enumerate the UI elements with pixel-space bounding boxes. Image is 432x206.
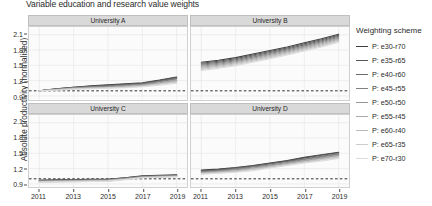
legend-item[interactable]: P: e35-r65 xyxy=(356,54,432,68)
plot-panel xyxy=(190,114,350,189)
legend-label: P: e40-r60 xyxy=(372,70,406,79)
x-tick-label: 2011 xyxy=(193,193,208,200)
legend-label: P: e30-r70 xyxy=(372,42,406,51)
y-tick-label: 2.1 xyxy=(13,118,23,125)
facet-university-a: University A xyxy=(28,15,188,101)
x-tick-label: 2015 xyxy=(262,193,278,200)
x-tick-label: 2017 xyxy=(135,193,151,200)
y-tick-label: 1.5 xyxy=(13,149,23,156)
x-axis-ticks: 2011201320152017201920112013201520172019 xyxy=(28,189,350,206)
y-tick-label: 2.1 xyxy=(13,30,23,37)
y-tick-label: 0.9 xyxy=(13,93,23,100)
legend-line-swatch xyxy=(356,130,368,131)
legend-item[interactable]: P: e50-r50 xyxy=(356,96,432,110)
x-tick-label: 2019 xyxy=(170,193,186,200)
facet-strip-label: University B xyxy=(190,15,350,26)
y-tick-label: 1.5 xyxy=(13,62,23,69)
legend-item[interactable]: P: e40-r60 xyxy=(356,68,432,82)
legend-item[interactable]: P: e45-r55 xyxy=(356,82,432,96)
x-tick-label: 2019 xyxy=(332,193,348,200)
plot-panel xyxy=(28,114,188,189)
facet-strip-label: University C xyxy=(28,103,188,114)
legend-item[interactable]: P: e60-r40 xyxy=(356,124,432,138)
legend-item[interactable]: P: e70-r30 xyxy=(356,152,432,166)
facet-strip-label: University D xyxy=(190,103,350,114)
legend-item[interactable]: P: e55-r45 xyxy=(356,110,432,124)
x-tick-label: 2013 xyxy=(227,193,243,200)
legend-line-swatch xyxy=(356,46,368,47)
legend-label: P: e45-r55 xyxy=(372,84,406,93)
legend-items: P: e30-r70P: e35-r65P: e40-r60P: e45-r55… xyxy=(356,40,432,166)
legend-label: P: e55-r45 xyxy=(372,112,406,121)
legend-label: P: e70-r30 xyxy=(372,154,406,163)
gridlines xyxy=(191,115,349,188)
y-axis-ticks: 0.91.21.51.82.10.91.21.51.82.1 xyxy=(0,0,27,206)
plot-panel xyxy=(28,26,188,101)
legend-item[interactable]: P: e30-r70 xyxy=(356,40,432,54)
legend-item[interactable]: P: e65-r35 xyxy=(356,138,432,152)
facet-university-d: University D xyxy=(190,103,350,189)
legend-line-swatch xyxy=(356,60,368,61)
x-tick-label: 2011 xyxy=(31,193,46,200)
x-tick-label: 2015 xyxy=(100,193,116,200)
legend-label: P: e60-r40 xyxy=(372,126,406,135)
y-tick-label: 1.8 xyxy=(13,46,23,53)
plot-panel xyxy=(190,26,350,101)
facet-strip-label: University A xyxy=(28,15,188,26)
legend-label: P: e50-r50 xyxy=(372,98,406,107)
y-tick-label: 0.9 xyxy=(13,181,23,188)
legend-title: Weighting scheme xyxy=(356,26,432,36)
legend-line-swatch xyxy=(356,102,368,103)
y-tick-label: 1.2 xyxy=(13,165,23,172)
x-tick-label: 2013 xyxy=(65,193,81,200)
facet-university-b: University B xyxy=(190,15,350,101)
legend-line-swatch xyxy=(356,116,368,117)
facet-grid: University AUniversity BUniversity CUniv… xyxy=(28,15,350,188)
y-tick-label: 1.2 xyxy=(13,78,23,85)
legend-line-swatch xyxy=(356,88,368,89)
legend-line-swatch xyxy=(356,144,368,145)
legend: Weighting scheme P: e30-r70P: e35-r65P: … xyxy=(356,26,432,166)
legend-line-swatch xyxy=(356,74,368,75)
legend-label: P: e65-r35 xyxy=(372,140,406,149)
legend-label: P: e35-r65 xyxy=(372,56,406,65)
y-tick-label: 1.8 xyxy=(13,134,23,141)
facet-university-c: University C xyxy=(28,103,188,189)
x-tick-label: 2017 xyxy=(297,193,313,200)
chart-title: Variable education and research value we… xyxy=(26,0,199,9)
legend-line-swatch xyxy=(356,158,368,159)
